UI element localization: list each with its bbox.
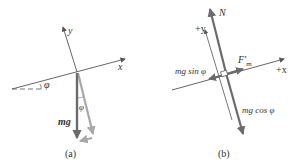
y-axis-label-b: +y [195,24,206,34]
component-vector-small [80,138,92,141]
weight-label: mg⃗ [58,117,79,127]
caption-a: (a) [65,149,76,159]
mg-sin-label: mg sin φ [175,67,206,76]
normal-force-label: N [219,8,226,18]
angle-label-horizontal: φ [44,80,50,90]
normal-force-vector [210,9,226,73]
object-marker [221,70,228,76]
x-axis-label-a: x [118,62,122,72]
y-axis-label-a: y [68,26,72,36]
magnetic-force-label: F′m [238,55,252,68]
angle-arc-horizontal [40,84,41,89]
mg-cos-label: mg cos φ [242,106,274,115]
x-axis [12,59,125,89]
x-axis-label-b: +x [276,65,287,75]
caption-b: (b) [218,149,230,159]
angle-label-vertical: φ [79,103,84,112]
magnetic-force-subscript: m [246,60,251,68]
mg-cos-vector [226,73,243,134]
